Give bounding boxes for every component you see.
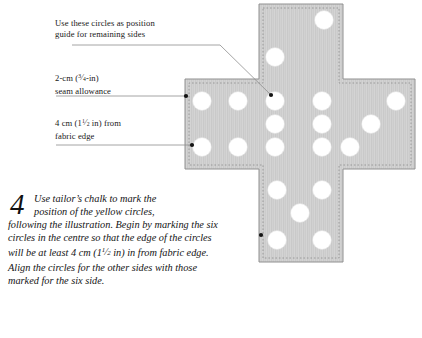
step-line-3: following the illustration. Begin by: [8, 219, 152, 230]
fabric-edge-marker: [190, 143, 194, 147]
seam-allowance-prefix: 2-cm (: [55, 73, 78, 83]
chalk-circle: [265, 114, 284, 133]
fraction-denominator: 2: [87, 121, 90, 127]
seam-allowance-fraction: 3⁄4: [78, 71, 86, 85]
step-instruction-text: Use tailor’s chalk to mark the position …: [8, 192, 220, 287]
position-guide-callout: Use these circles as position guide for …: [55, 18, 155, 41]
seam-allowance-line: [189, 8, 411, 258]
step-line-8: marked for the six side.: [8, 275, 104, 286]
step-line-7: the circles for the other sides with tho…: [33, 262, 197, 273]
seam-allowance-callout-line1: 2-cm (3⁄4-in): [55, 72, 111, 86]
chalk-circle: [312, 114, 331, 133]
chalk-circle: [340, 137, 359, 156]
chalk-circle: [265, 91, 284, 110]
fabric-edge-suffix: in) from: [90, 118, 121, 128]
chalk-circle: [361, 114, 380, 133]
fabric-edge-callout-line2: fabric edge: [55, 131, 121, 142]
step-line-1: Use tailor’s chalk to mark the: [8, 192, 220, 205]
seam-allowance-marker: [184, 94, 188, 98]
fraction-denominator: 2: [107, 249, 110, 256]
chalk-circle: [228, 137, 247, 156]
chalk-circle: [314, 10, 333, 29]
chalk-circle: [267, 180, 286, 199]
chalk-circle: [228, 91, 247, 110]
fraction-denominator: 4: [83, 76, 86, 82]
chalk-circle: [312, 91, 331, 110]
fabric-edge-callout: 4 cm (11⁄2 in) from fabric edge: [55, 117, 121, 142]
fabric-edge-fraction: 1⁄2: [82, 116, 90, 130]
chalk-circle: [386, 91, 405, 110]
step-line-6-prefix: 4 cm (1: [71, 247, 102, 258]
position-guide-callout-line2: guide for remaining sides: [55, 29, 155, 40]
seam-allowance-callout-line2: seam allowance: [55, 86, 111, 97]
fabric-edge-callout-line1: 4 cm (11⁄2 in) from: [55, 117, 121, 131]
fabric-edge-prefix: 4 cm (1: [55, 118, 82, 128]
chalk-circle: [192, 91, 211, 110]
step-line-2: position of the yellow circles,: [8, 205, 220, 218]
chalk-circle: [265, 137, 284, 156]
chalk-circle: [290, 203, 309, 222]
chalk-circle-group: [192, 10, 405, 249]
cross-shaped-fabric-panel: [0, 0, 422, 338]
bottom-arm-marker: [259, 233, 263, 237]
chalk-circle: [312, 180, 331, 199]
fabric-body: [185, 0, 415, 338]
illustration-page: Use these circles as position guide for …: [0, 0, 422, 338]
position-guide-callout-line1: Use these circles as position: [55, 18, 155, 29]
step-fraction: 1⁄2: [102, 243, 111, 259]
seam-allowance-suffix: -in): [86, 73, 99, 83]
chalk-circle: [265, 47, 284, 66]
seam-allowance-callout: 2-cm (3⁄4-in) seam allowance: [55, 72, 111, 97]
chalk-circle: [192, 137, 211, 156]
chalk-circle: [312, 137, 331, 156]
chalk-circle: [267, 230, 286, 249]
position-guide-marker: [269, 93, 273, 97]
chalk-circle: [312, 230, 331, 249]
fabric-weave-texture: [188, 0, 412, 338]
